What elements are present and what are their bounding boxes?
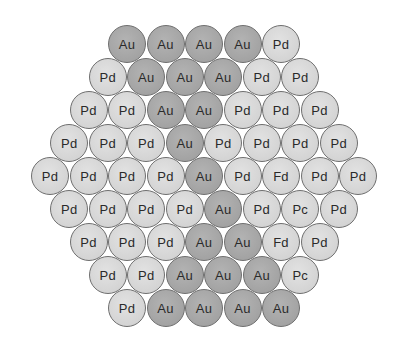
atom-pd-r2-c6: Pd: [281, 58, 319, 96]
atom-pd-r4-c1: Pd: [50, 124, 88, 162]
atom-pd-r3-c6: Pd: [262, 91, 300, 129]
atom-pd-r7-c2: Pd: [108, 223, 146, 261]
atom-au-r2-c2: Au: [127, 58, 165, 96]
atom-pd-r2-c1: Pd: [89, 58, 127, 96]
atom-pd-r3-c5: Pd: [224, 91, 262, 129]
atom-pd-r4-c2: Pd: [89, 124, 127, 162]
atom-pd-r9-c1: Pd: [108, 289, 146, 327]
atom-pd-r3-c2: Pd: [108, 91, 146, 129]
atom-au-r1-c3: Au: [185, 25, 223, 63]
atom-pd-r8-c6: Pc: [281, 256, 319, 294]
atom-au-r8-c4: Au: [204, 256, 242, 294]
atom-pd-r5-c9: Pd: [339, 157, 377, 195]
atom-pd-r3-c7: Pd: [301, 91, 339, 129]
atom-pd-r6-c7: Pc: [281, 190, 319, 228]
atom-pd-r4-c8: Pd: [320, 124, 358, 162]
atom-pd-r5-c7: Fd: [262, 157, 300, 195]
atom-hexagon-diagram: AuAuAuAuPdPdAuAuAuPdPdPdPdAuAuPdPdPdPdPd…: [0, 0, 397, 346]
atom-au-r9-c4: Au: [224, 289, 262, 327]
atom-au-r8-c5: Au: [243, 256, 281, 294]
atom-pd-r5-c2: Pd: [70, 157, 108, 195]
atom-au-r4-c4: Au: [166, 124, 204, 162]
atom-pd-r5-c4: Pd: [147, 157, 185, 195]
atom-pd-r6-c4: Pd: [166, 190, 204, 228]
atom-pd-r6-c6: Pd: [243, 190, 281, 228]
atom-pd-r6-c1: Pd: [50, 190, 88, 228]
atom-pd-r7-c6: Fd: [262, 223, 300, 261]
atom-au-r5-c5: Au: [185, 157, 223, 195]
atom-au-r9-c2: Au: [147, 289, 185, 327]
atom-au-r7-c4: Au: [185, 223, 223, 261]
atom-au-r9-c5: Au: [262, 289, 300, 327]
atom-pd-r2-c5: Pd: [243, 58, 281, 96]
atom-pd-r4-c7: Pd: [281, 124, 319, 162]
atom-pd-r8-c2: Pd: [127, 256, 165, 294]
atom-pd-r5-c6: Pd: [224, 157, 262, 195]
atom-pd-r3-c1: Pd: [70, 91, 108, 129]
atom-au-r2-c3: Au: [166, 58, 204, 96]
atom-pd-r4-c3: Pd: [127, 124, 165, 162]
atom-pd-r5-c8: Pd: [301, 157, 339, 195]
atom-pd-r6-c8: Pd: [320, 190, 358, 228]
atom-pd-r6-c2: Pd: [89, 190, 127, 228]
atom-au-r1-c2: Au: [147, 25, 185, 63]
atom-au-r1-c1: Au: [108, 25, 146, 63]
atom-pd-r1-c5: Pd: [262, 25, 300, 63]
atom-au-r3-c4: Au: [185, 91, 223, 129]
atom-au-r2-c4: Au: [204, 58, 242, 96]
atom-au-r7-c5: Au: [224, 223, 262, 261]
atom-pd-r4-c5: Pd: [204, 124, 242, 162]
atom-pd-r8-c1: Pd: [89, 256, 127, 294]
atom-pd-r7-c7: Pd: [301, 223, 339, 261]
atom-au-r3-c3: Au: [147, 91, 185, 129]
atom-au-r6-c5: Au: [204, 190, 242, 228]
atom-pd-r7-c3: Pd: [147, 223, 185, 261]
atom-pd-r7-c1: Pd: [70, 223, 108, 261]
atom-au-r9-c3: Au: [185, 289, 223, 327]
atom-au-r8-c3: Au: [166, 256, 204, 294]
atom-au-r1-c4: Au: [224, 25, 262, 63]
atom-pd-r4-c6: Pd: [243, 124, 281, 162]
atom-pd-r6-c3: Pd: [127, 190, 165, 228]
atom-pd-r5-c3: Pd: [108, 157, 146, 195]
atom-pd-r5-c1: Pd: [31, 157, 69, 195]
